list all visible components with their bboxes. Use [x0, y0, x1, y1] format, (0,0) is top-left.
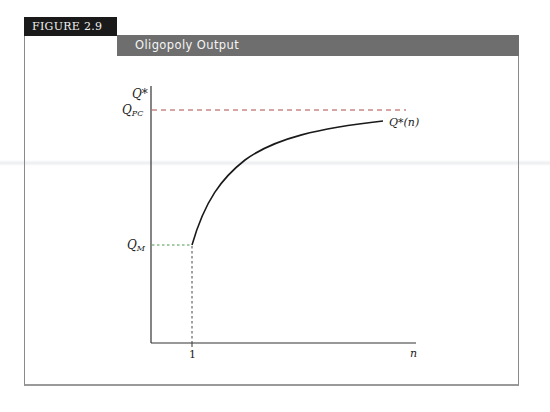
x-axis-label: n: [410, 347, 417, 360]
y-axis-label: Q*: [132, 87, 148, 101]
chart: Q* QPC QM Q*(n) n 1: [0, 0, 550, 412]
curve-label: Q*(n): [389, 116, 419, 129]
x-tick-label-1: 1: [189, 348, 196, 361]
q-star-n-curve: [192, 121, 383, 245]
q-m-label: QM: [127, 238, 146, 253]
q-pc-label: QPC: [122, 103, 143, 118]
